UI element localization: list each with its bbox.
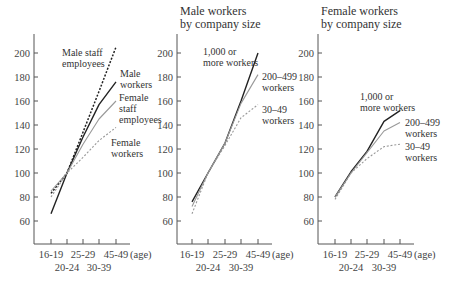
series-annotation: workers xyxy=(262,82,294,93)
chart-canvas: 608010012014016018020016-1925-2945-4920-… xyxy=(0,0,457,284)
series-annotation: workers xyxy=(405,152,437,163)
chart-title: Female workers xyxy=(321,4,398,18)
y-tick-label: 160 xyxy=(298,96,314,107)
series-annotation: more workers xyxy=(203,57,258,68)
y-tick-label: 160 xyxy=(14,96,30,107)
x-tick-label: 20-24 xyxy=(55,262,80,273)
y-tick-label: 140 xyxy=(298,120,314,131)
series-line xyxy=(51,101,116,191)
series-annotation: Female xyxy=(119,92,149,103)
y-tick-label: 180 xyxy=(157,72,173,83)
series-annotation: more workers xyxy=(360,102,415,113)
y-tick-label: 60 xyxy=(304,216,315,227)
y-tick-label: 120 xyxy=(157,144,173,155)
series-annotation: 1,000 or xyxy=(203,46,237,57)
chart-title: by company size xyxy=(180,17,261,31)
y-tick-label: 200 xyxy=(298,48,314,59)
y-tick-label: 140 xyxy=(157,120,173,131)
y-tick-label: 80 xyxy=(20,192,31,203)
chart-title: by company size xyxy=(321,17,402,31)
x-tick-label: 20-24 xyxy=(196,262,221,273)
series-line xyxy=(335,123,400,197)
series-annotation: Female xyxy=(111,137,141,148)
y-tick-label: 100 xyxy=(157,168,173,179)
chart-female-by-size: 608010012014016018020016-1925-2945-4920-… xyxy=(298,4,440,273)
x-tick-label: 16-19 xyxy=(180,249,205,260)
x-tick-label: 16-19 xyxy=(39,249,64,260)
series-annotation: workers xyxy=(405,128,437,139)
series-annotation: 1,000 or xyxy=(360,91,394,102)
y-tick-label: 140 xyxy=(14,120,30,131)
x-tick-label: 25-29 xyxy=(213,249,238,260)
series-annotation: employees xyxy=(62,58,105,69)
y-tick-label: 120 xyxy=(14,144,30,155)
series-annotation: 200–499 xyxy=(262,71,297,82)
y-tick-label: 200 xyxy=(157,48,173,59)
x-tick-label: 30-39 xyxy=(87,262,112,273)
series-annotation: workers xyxy=(262,115,294,126)
x-tick-label: 25-29 xyxy=(71,249,96,260)
series-annotation: Male staff xyxy=(62,47,103,58)
series-annotation: 200–499 xyxy=(405,117,440,128)
x-tick-label: 20-24 xyxy=(339,262,364,273)
series-annotation: 30–49 xyxy=(262,104,287,115)
y-tick-label: 100 xyxy=(14,168,30,179)
y-tick-label: 80 xyxy=(163,192,174,203)
series-annotation: workers xyxy=(120,79,152,90)
x-tick-label: 45-49 xyxy=(388,249,413,260)
chart-all-workers: 608010012014016018020016-1925-2945-4920-… xyxy=(14,34,162,273)
y-tick-label: 180 xyxy=(298,72,314,83)
y-tick-label: 180 xyxy=(14,72,30,83)
x-tick-label: 30-39 xyxy=(372,262,397,273)
x-tick-label: 45-49 xyxy=(104,249,129,260)
series-line xyxy=(51,127,116,197)
chart-title: Male workers xyxy=(180,4,247,18)
y-tick-label: 100 xyxy=(298,168,314,179)
x-tick-label: 30-39 xyxy=(229,262,254,273)
series-annotation: staff xyxy=(119,103,137,114)
y-tick-label: 60 xyxy=(163,216,174,227)
series-line xyxy=(51,82,116,214)
y-tick-label: 200 xyxy=(14,48,30,59)
series-annotation: employees xyxy=(119,114,162,125)
chart-male-by-size: 608010012014016018020016-1925-2945-4920-… xyxy=(157,4,297,273)
series-annotation: workers xyxy=(111,148,143,159)
x-axis-label: (age) xyxy=(272,249,294,261)
y-tick-label: 120 xyxy=(298,144,314,155)
y-tick-label: 60 xyxy=(20,216,31,227)
series-annotation: 30–49 xyxy=(405,141,430,152)
series-line xyxy=(335,111,400,197)
series-line xyxy=(192,53,258,202)
series-line xyxy=(192,75,258,207)
series-annotation: Male xyxy=(120,68,141,79)
y-tick-label: 80 xyxy=(304,192,315,203)
x-axis-label: (age) xyxy=(130,249,152,261)
x-tick-label: 25-29 xyxy=(355,249,380,260)
series-line xyxy=(192,105,258,214)
x-tick-label: 16-19 xyxy=(323,249,348,260)
x-axis-label: (age) xyxy=(414,249,436,261)
x-tick-label: 45-49 xyxy=(246,249,271,260)
y-tick-label: 160 xyxy=(157,96,173,107)
